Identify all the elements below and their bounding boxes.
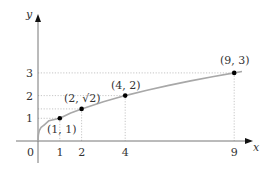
y-axis-label: y — [25, 8, 33, 21]
point-label-4-2: (4, 2) — [111, 79, 141, 92]
point-label-2-prefix: (2, — [64, 92, 82, 105]
y-axis-arrow-icon — [35, 14, 41, 22]
x-tick-1: 1 — [57, 146, 64, 159]
y-tick-3: 3 — [26, 67, 33, 80]
origin-label: 0 — [27, 146, 34, 159]
x-axis-label: x — [253, 141, 260, 154]
y-tick-1: 1 — [26, 112, 33, 125]
x-tick-4: 4 — [122, 146, 129, 159]
point-1-1 — [58, 116, 63, 121]
x-tick-9: 9 — [231, 146, 238, 159]
point-label-2-suffix: ) — [96, 92, 100, 105]
y-tick-2: 2 — [26, 90, 33, 103]
point-label-9-3: (9, 3) — [220, 54, 250, 67]
sqrt-function-plot: y x 0 1 2 4 9 1 2 3 (1, 1) (2, √2) (4, 2… — [0, 0, 272, 171]
point-label-2-root: √2 — [82, 92, 96, 105]
point-label-1-1: (1, 1) — [47, 123, 77, 136]
point-2-sqrt2 — [79, 107, 84, 112]
point-4-2 — [123, 93, 128, 98]
point-label-2-sqrt2: (2, √2) — [64, 92, 101, 105]
x-axis-arrow-icon — [245, 138, 253, 144]
x-tick-2: 2 — [78, 146, 85, 159]
point-9-3 — [232, 71, 237, 76]
